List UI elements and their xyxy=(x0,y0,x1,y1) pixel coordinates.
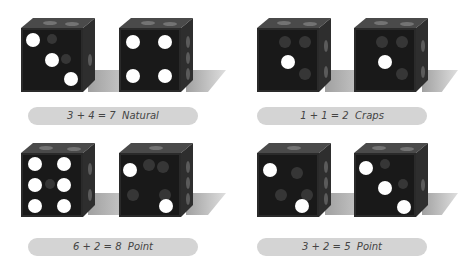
pip xyxy=(281,55,295,69)
pip xyxy=(28,157,42,171)
pip xyxy=(28,178,42,192)
roll-point-8: 6 + 2 = 8 Point xyxy=(0,135,229,270)
die-face-2 xyxy=(257,143,333,221)
roll-natural-7: 3 + 4 = 7 Natural xyxy=(0,0,229,135)
pip xyxy=(378,181,392,195)
die-face-2 xyxy=(119,143,195,221)
pip xyxy=(64,72,78,86)
die-face-1 xyxy=(257,18,333,96)
pip xyxy=(126,35,140,49)
pip xyxy=(263,163,277,177)
pip xyxy=(159,199,173,213)
pip xyxy=(158,35,172,49)
pip xyxy=(359,161,373,175)
pip xyxy=(123,163,137,177)
roll-label: 3 + 2 = 5 Point xyxy=(257,238,427,256)
roll-craps-2: 1 + 1 = 2 Craps xyxy=(229,0,458,135)
pip xyxy=(57,199,71,213)
die-face-3 xyxy=(21,18,97,96)
roll-point-5: 3 + 2 = 5 Point xyxy=(229,135,458,270)
roll-label: 3 + 4 = 7 Natural xyxy=(28,107,198,125)
pip xyxy=(397,200,411,214)
pip xyxy=(45,53,59,67)
die-face-1 xyxy=(354,18,430,96)
die-face-4 xyxy=(119,18,195,96)
pip xyxy=(158,69,172,83)
pip xyxy=(57,157,71,171)
pip xyxy=(378,55,392,69)
pip xyxy=(295,199,309,213)
pip xyxy=(57,178,71,192)
roll-label: 1 + 1 = 2 Craps xyxy=(257,107,427,125)
pip xyxy=(28,199,42,213)
roll-label: 6 + 2 = 8 Point xyxy=(28,238,198,256)
die-face-6 xyxy=(21,143,97,221)
pip xyxy=(126,69,140,83)
pip xyxy=(26,33,40,47)
die-face-3 xyxy=(354,143,430,221)
